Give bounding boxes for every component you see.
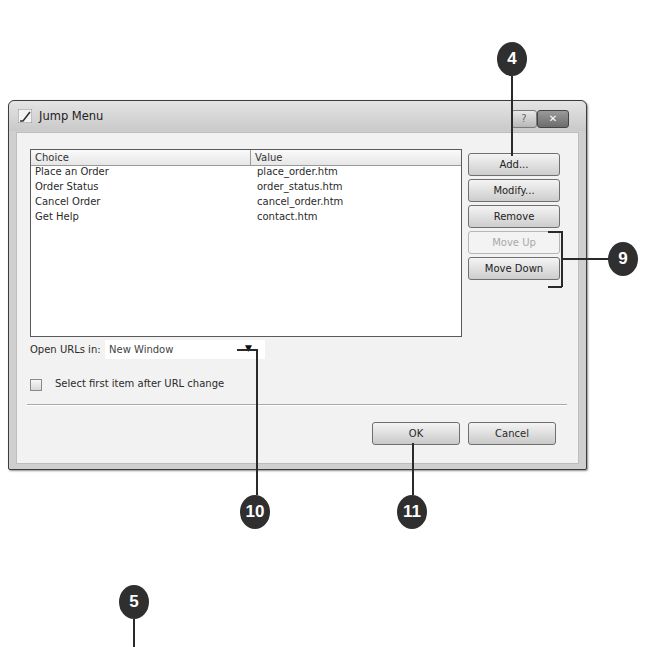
choice-cell: Order Status: [31, 181, 251, 196]
ok-button[interactable]: OK: [372, 422, 460, 445]
callout-5-leader: [133, 619, 135, 647]
callout-4-leader: [511, 76, 513, 156]
callout-9: 9: [608, 242, 638, 276]
close-button[interactable]: ✕: [537, 110, 569, 128]
callout-5: 5: [119, 585, 149, 619]
column-header-choice[interactable]: Choice: [31, 150, 251, 165]
callout-11-leader: [412, 443, 414, 495]
callout-9-leader: [562, 258, 612, 260]
bracket-9-top: [548, 231, 562, 233]
value-cell: place_order.htm: [251, 166, 338, 181]
value-cell: contact.htm: [251, 211, 318, 226]
value-cell: order_status.htm: [251, 181, 343, 196]
title-bar: Jump Menu ? ✕: [9, 101, 586, 131]
select-first-checkbox[interactable]: [30, 379, 42, 391]
help-button[interactable]: ?: [511, 110, 537, 128]
value-cell: cancel_order.htm: [251, 196, 343, 211]
list-item[interactable]: Cancel Order cancel_order.htm: [31, 196, 461, 211]
list-item[interactable]: Get Help contact.htm: [31, 211, 461, 226]
jump-menu-dialog: Jump Menu ? ✕ Choice Value Place an Orde…: [8, 100, 587, 470]
move-down-button[interactable]: Move Down: [468, 257, 560, 280]
callout-10-leader-h: [237, 349, 257, 351]
dropdown-arrow-icon: ▼: [245, 343, 252, 353]
menu-items-list[interactable]: Choice Value Place an Order place_order.…: [30, 149, 462, 337]
separator: [27, 404, 567, 406]
dialog-title: Jump Menu: [39, 109, 103, 123]
callout-4: 4: [497, 42, 527, 76]
remove-button[interactable]: Remove: [468, 205, 560, 228]
list-header: Choice Value: [31, 150, 461, 166]
dreamweaver-app-icon: [18, 109, 32, 123]
cancel-button[interactable]: Cancel: [468, 422, 556, 445]
bracket-9-bottom: [548, 286, 562, 288]
choice-cell: Place an Order: [31, 166, 251, 181]
dialog-body: Choice Value Place an Order place_order.…: [16, 132, 579, 464]
list-item[interactable]: Place an Order place_order.htm: [31, 166, 461, 181]
move-up-button[interactable]: Move Up: [468, 231, 560, 254]
callout-11: 11: [397, 495, 427, 529]
add-button[interactable]: Add...: [468, 153, 560, 176]
modify-button[interactable]: Modify...: [468, 179, 560, 202]
callout-10: 10: [240, 495, 270, 529]
open-urls-value: New Window: [109, 344, 173, 355]
open-urls-label: Open URLs in:: [30, 344, 101, 355]
column-header-value[interactable]: Value: [251, 150, 286, 165]
choice-cell: Cancel Order: [31, 196, 251, 211]
list-item[interactable]: Order Status order_status.htm: [31, 181, 461, 196]
callout-10-leader-v: [256, 349, 258, 495]
select-first-label[interactable]: Select first item after URL change: [55, 378, 224, 389]
choice-cell: Get Help: [31, 211, 251, 226]
